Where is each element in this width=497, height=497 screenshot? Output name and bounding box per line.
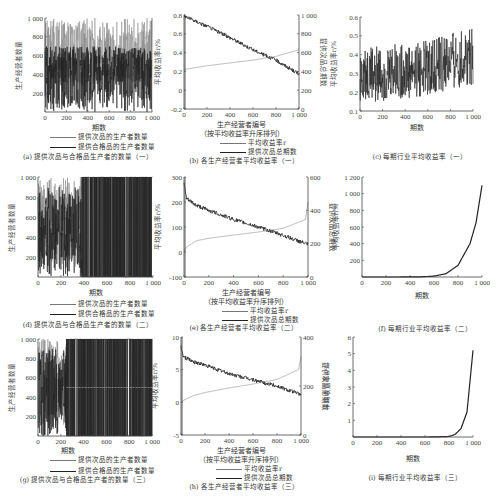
series-industry-avg-return <box>360 29 473 102</box>
y-tick-label: 600 <box>26 214 37 222</box>
y-right-tick-label: 200 <box>301 87 312 95</box>
x-tick-label: 1 000 <box>144 438 160 446</box>
x-tick-label: 600 <box>423 113 434 121</box>
y-tick-label: 10 <box>172 334 180 342</box>
y-right-tick-label: 200 <box>303 383 314 391</box>
series-industry-avg-return <box>362 185 482 277</box>
y-tick-label: 200 <box>26 254 37 262</box>
caption-h: (h) 各生产经营者平均收益率（三） <box>174 481 314 491</box>
series-defective-periods <box>184 15 299 75</box>
xlabel-c: 期数 <box>360 122 473 132</box>
series-industry-avg-return <box>353 350 473 437</box>
y-tick-label: 800 <box>26 194 37 202</box>
y-tick-label: 1 200 <box>344 174 360 182</box>
legend-a-label-2: 提供合格品的生产者数量 <box>78 143 155 151</box>
x-tick-label: 1 000 <box>474 279 490 287</box>
axes: 02004006008001 000-100010020030002004006… <box>153 174 337 288</box>
x-tick-label: 800 <box>271 111 282 119</box>
y-tick-label: 400 <box>33 71 44 79</box>
x-tick-label: 1 000 <box>144 114 160 122</box>
y-tick-label: 800 <box>33 33 44 41</box>
legend-a-1: 提供次品的生产者数量 <box>50 131 148 141</box>
y-tick-label: 1 000 <box>20 174 36 182</box>
y-right-tick-label: 200 <box>310 240 321 248</box>
x-tick-label: 1 000 <box>145 279 161 287</box>
legend-a-2: 提供合格品的生产者数量 <box>50 141 155 151</box>
x-tick-label: 0 <box>360 279 364 287</box>
y-right-tick-label: 0 <box>303 432 307 440</box>
y-tick-label: 0.2 <box>349 89 358 97</box>
panel-f: 02004006008001 0002004006008001 0001 200… <box>330 165 497 335</box>
y-tick-label: 1 000 <box>27 15 43 23</box>
x-tick-label: 1 000 <box>300 279 316 287</box>
y-tick-label: 0 <box>179 249 183 257</box>
series-defective-periods <box>184 183 308 246</box>
legend-line-icon <box>222 320 248 321</box>
x-tick-label: 400 <box>228 279 239 287</box>
axes: 02004006008001 0002004006008001 0001 200… <box>331 174 490 288</box>
y-tick-label: 800 <box>350 207 361 215</box>
y-right-tick-label: 400 <box>303 334 314 342</box>
y-tick-label: 0.2 <box>173 68 182 76</box>
x-tick-label: 800 <box>453 279 464 287</box>
legend-line-icon <box>222 311 248 312</box>
x-tick-label: 0 <box>182 279 186 287</box>
x-tick-label: 600 <box>429 279 440 287</box>
y-right-tick-label: 400 <box>310 207 321 215</box>
y-tick-label: 600 <box>26 374 37 382</box>
y-tick-label: 400 <box>26 394 37 402</box>
series-qualified-producers <box>45 18 152 112</box>
x-tick-label: 400 <box>225 111 236 119</box>
legend-d-2: 提供合格品的生产者数量 <box>50 308 155 318</box>
panel-b: 02004006008001 000-0.200.20.40.60.802004… <box>160 0 335 165</box>
y-tick-label: 0.8 <box>173 12 182 20</box>
series-avg-return <box>184 50 299 70</box>
legend-line-icon <box>216 469 242 470</box>
panel-c: 02004006008001 0000.10.20.30.40.50.6平均收益… <box>330 0 497 165</box>
legend-line-icon <box>50 471 76 472</box>
caption-i: (i) 每期行业平均收益率（三） <box>345 472 485 482</box>
y-tick-label: 6 <box>348 334 352 342</box>
x-tick-label: 800 <box>445 113 456 121</box>
x-tick-label: 200 <box>56 279 67 287</box>
y-tick-label: -100 <box>169 274 182 282</box>
x-tick-label: 600 <box>101 438 112 446</box>
y-tick-label: 0.6 <box>173 30 182 38</box>
x-tick-label: 200 <box>200 437 211 445</box>
plot-area <box>38 177 153 277</box>
x-tick-label: 200 <box>372 439 383 447</box>
caption-d: (d) 提供次品与合格品生产者的数量（二） <box>8 319 168 329</box>
y-right-tick-label: 600 <box>301 49 312 57</box>
y-tick-label: 0.4 <box>349 51 358 59</box>
y-tick-label: 0 <box>179 87 183 95</box>
legend-line-icon <box>50 147 76 148</box>
y-tick-label: 0.1 <box>349 108 358 116</box>
plot-area <box>38 339 152 436</box>
panel-a: 02004006008001 0002004006008001 000生产经营者… <box>0 0 165 160</box>
xlabel-i: 期数 <box>353 453 473 463</box>
caption-a: (a) 提供次品与合格品生产者的数量（一） <box>8 151 168 161</box>
y-right-tick-label: 800 <box>301 30 312 38</box>
plot-area <box>45 18 152 112</box>
x-tick-label: 600 <box>420 439 431 447</box>
caption-c: (c) 每期行业平均收益率（一） <box>350 151 490 161</box>
y-axis-label: 平均收益率r/% <box>329 41 338 87</box>
x-tick-label: 1 000 <box>291 111 307 119</box>
legend-g-label-1: 提供次品的生产者数量 <box>78 456 148 464</box>
x-tick-label: 800 <box>125 114 136 122</box>
y-tick-label: 3 <box>348 384 352 392</box>
y-tick-label: 1 000 <box>344 190 360 198</box>
y-tick-label: 0.5 <box>349 32 358 40</box>
y-tick-label: 200 <box>33 90 44 98</box>
y-tick-label: 400 <box>350 240 361 248</box>
x-tick-label: 600 <box>102 279 113 287</box>
x-tick-label: 800 <box>125 279 136 287</box>
x-tick-label: 400 <box>224 437 235 445</box>
y-tick-label: 1 000 <box>20 336 36 344</box>
y-right-tick-label: 0 <box>301 106 305 114</box>
x-tick-label: 600 <box>104 114 115 122</box>
plot-area <box>181 337 301 435</box>
y-tick-label: 0.6 <box>349 14 358 22</box>
y-tick-label: 5 <box>176 366 180 374</box>
y-tick-label: 0 <box>176 399 180 407</box>
